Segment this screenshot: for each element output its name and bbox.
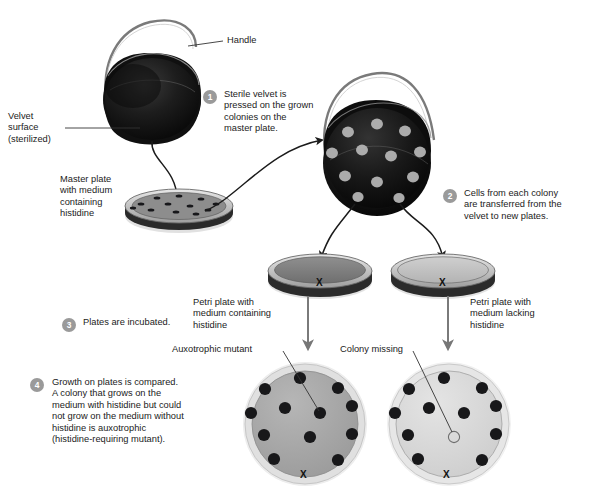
label-handle: Handle — [227, 35, 256, 46]
label-petri-lacking-histidine: Petri plate with medium lacking histidin… — [470, 297, 535, 331]
label-velvet-surface: Velvet surface (sterilized) — [8, 111, 51, 145]
step-text-1: Sterile velvet is pressed on the grown c… — [224, 89, 313, 135]
plate-x-mark-right: X — [439, 277, 446, 288]
step-badge-2: 2 — [443, 189, 457, 203]
step-badge-4: 4 — [30, 378, 44, 392]
step-text-2: Cells from each colony are transferred f… — [464, 188, 562, 222]
step-badge-1: 1 — [203, 90, 217, 104]
final-plate-lacking-histidine — [387, 362, 511, 486]
arrow-velvet2-to-plate-left — [321, 204, 355, 258]
label-auxotrophic-mutant: Auxotrophic mutant — [172, 344, 252, 355]
final-plate-x-mark-left: X — [300, 469, 307, 480]
master-plate — [125, 189, 233, 233]
leader-handle — [188, 41, 223, 46]
arrow-velvet2-to-plate-right — [400, 204, 443, 258]
final-plate-x-mark-right: X — [443, 469, 450, 480]
arrow-master-to-velvet2 — [205, 140, 322, 211]
velvet-block-2 — [323, 73, 434, 216]
step-badge-3: 3 — [62, 318, 76, 332]
label-master-plate: Master plate with medium containing hist… — [60, 174, 112, 220]
figure-canvas: X X X X Handle Velvet surface (sterilize… — [0, 0, 600, 496]
step-text-3: Plates are incubated. — [83, 317, 170, 328]
final-plate-with-histidine — [243, 362, 367, 486]
step-text-4: Growth on plates is compared. A colony t… — [52, 377, 184, 445]
label-petri-with-histidine: Petri plate with medium containing histi… — [193, 297, 271, 331]
label-colony-missing: Colony missing — [340, 344, 403, 355]
plate-x-mark-left: X — [316, 277, 323, 288]
velvet-block-1 — [103, 20, 201, 144]
